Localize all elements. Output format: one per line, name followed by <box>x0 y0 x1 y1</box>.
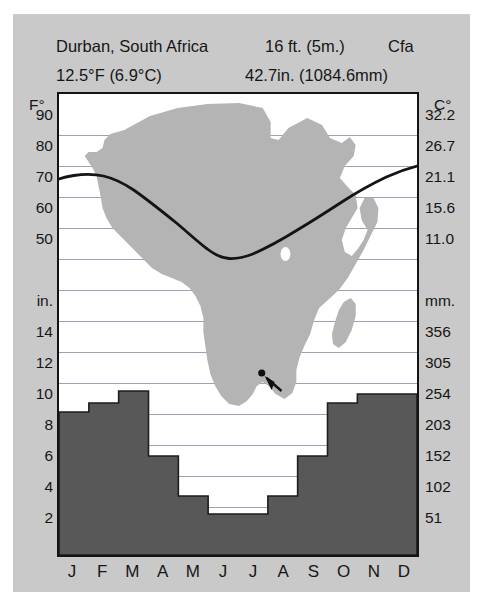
month-label-sep: S <box>298 562 328 592</box>
month-axis-labels: J F M A M J J A S O N D <box>57 562 419 592</box>
tick-c-11: 11.0 <box>425 231 454 247</box>
mm-axis-unit: mm. <box>425 293 455 309</box>
tick-c-15: 15.6 <box>425 200 455 216</box>
tick-in-14: 14 <box>36 324 53 340</box>
madagascar-map-silhouette <box>332 298 356 348</box>
tick-mm-305: 305 <box>425 355 451 371</box>
month-label-nov: N <box>359 562 389 592</box>
month-label-aug: A <box>268 562 298 592</box>
climograph-card: Durban, South Africa 16 ft. (5m.) Cfa 12… <box>13 14 470 592</box>
tick-in-2: 2 <box>44 510 53 526</box>
month-label-may: M <box>178 562 208 592</box>
tick-f-50: 50 <box>36 231 53 247</box>
tick-f-80: 80 <box>36 138 53 154</box>
tick-in-6: 6 <box>44 448 53 464</box>
month-label-jun: J <box>208 562 238 592</box>
tick-in-10: 10 <box>36 386 53 402</box>
climograph-plot <box>57 92 419 557</box>
month-label-feb: F <box>87 562 117 592</box>
tick-f-90: 90 <box>36 107 53 123</box>
tick-f-70: 70 <box>36 169 53 185</box>
tick-c-32: 32.2 <box>425 107 455 123</box>
tick-c-21: 21.1 <box>425 169 455 185</box>
month-label-dec: D <box>389 562 419 592</box>
africa-map-silhouette <box>85 103 379 406</box>
precipitation-bars <box>59 391 417 555</box>
map-lake-spot <box>281 247 291 261</box>
left-axis-scale: 90 80 70 60 50 in. 14 12 10 8 6 4 2 <box>13 92 53 557</box>
city-label: Durban, South Africa <box>56 37 208 56</box>
temperature-range-label: 12.5°F (6.9°C) <box>56 66 162 85</box>
plot-graphics <box>59 94 417 555</box>
durban-location-marker <box>258 369 265 376</box>
month-label-oct: O <box>329 562 359 592</box>
tick-mm-203: 203 <box>425 417 451 433</box>
tick-f-60: 60 <box>36 200 53 216</box>
elevation-label: 16 ft. (5m.) <box>265 37 345 56</box>
precipitation-total-label: 42.7in. (1084.6mm) <box>245 66 388 85</box>
right-axis-scale: 32.2 26.7 21.1 15.6 11.0 mm. 356 305 254… <box>425 92 483 557</box>
tick-mm-102: 102 <box>425 479 451 495</box>
koppen-code-label: Cfa <box>388 37 414 56</box>
month-label-apr: A <box>148 562 178 592</box>
tick-mm-152: 152 <box>425 448 451 464</box>
inches-axis-unit: in. <box>37 293 53 309</box>
tick-mm-51: 51 <box>425 510 442 526</box>
month-label-jul: J <box>238 562 268 592</box>
tick-c-26: 26.7 <box>425 138 455 154</box>
tick-mm-254: 254 <box>425 386 451 402</box>
tick-in-4: 4 <box>44 479 53 495</box>
tick-in-12: 12 <box>36 355 53 371</box>
tick-mm-356: 356 <box>425 324 451 340</box>
month-label-jan: J <box>57 562 87 592</box>
tick-in-8: 8 <box>44 417 53 433</box>
month-label-mar: M <box>117 562 147 592</box>
